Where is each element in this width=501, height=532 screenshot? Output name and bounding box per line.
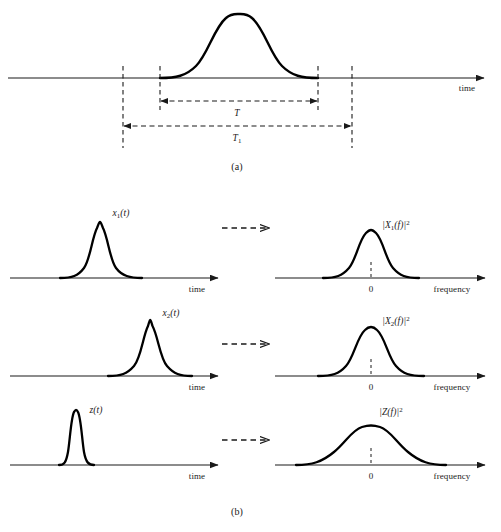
panel-a-graph (8, 14, 484, 148)
panel-b-row-x2 (10, 320, 485, 376)
panel-a-measure-label-t: T (234, 109, 239, 119)
row-x2-time-pulse (108, 320, 192, 376)
row-x1-frequency-axis-label: frequency (434, 285, 471, 294)
row-x1-time-axis-label: time (189, 285, 205, 294)
panel-b-caption: (b) (231, 507, 243, 517)
row-x1-time-signal-label: x1(t) (112, 209, 129, 220)
row-z-time-axis-label: time (189, 472, 205, 481)
row-x1-time-pulse (60, 222, 142, 278)
panel-b-row-z (10, 410, 485, 465)
row-x2-time-axis-label: time (189, 383, 205, 392)
figure-vector-layer (0, 0, 501, 532)
row-x2-frequency-pulse (318, 327, 424, 376)
panel-a-time-axis-label: time (459, 84, 475, 93)
row-z-time-pulse (59, 410, 94, 465)
row-z-frequency-signal-label: |Z(f)|2 (379, 407, 403, 419)
panel-a-measure-label-t1: T1 (233, 134, 242, 145)
row-z-frequency-pulse (296, 426, 446, 466)
row-x2-frequency-signal-label: |X2(f)|2 (382, 316, 410, 328)
row-x2-time-signal-label: x2(t) (162, 309, 179, 320)
signal-processing-figure: time T T1 (a) x1(t) time |X1(f)|2 0 freq… (0, 0, 501, 532)
panel-a-gaussian-pulse (160, 14, 318, 78)
row-z-time-signal-label: z(t) (89, 406, 102, 417)
panel-a-caption: (a) (231, 162, 242, 172)
row-x1-frequency-signal-label: |X1(f)|2 (382, 220, 410, 232)
row-x2-zero-tick-label: 0 (369, 383, 374, 392)
row-z-zero-tick-label: 0 (369, 472, 374, 481)
row-x2-frequency-axis-label: frequency (434, 383, 471, 392)
row-z-frequency-axis-label: frequency (434, 472, 471, 481)
panel-b-row-x1 (10, 222, 485, 278)
row-x1-zero-tick-label: 0 (369, 285, 374, 294)
